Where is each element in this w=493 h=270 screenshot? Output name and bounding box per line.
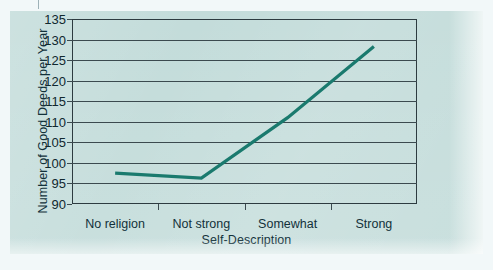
x-category-label: Somewhat [258, 217, 317, 231]
x-category-label: Not strong [173, 217, 231, 231]
figure-page: Number of Good Deeds per Year Self-Descr… [0, 0, 493, 270]
data-line-series [72, 19, 417, 204]
x-category-label: Strong [355, 217, 392, 231]
series-polyline [115, 47, 374, 179]
y-tick-label: 115 [45, 94, 66, 109]
x-tick-mark [331, 204, 332, 210]
y-tick-label: 105 [44, 135, 66, 150]
x-category-label: No religion [85, 217, 145, 231]
y-tick-label: 125 [44, 53, 66, 68]
y-tick-label: 100 [44, 155, 66, 170]
plot-area: 9095100105110115120125130135 No religion… [72, 19, 417, 204]
y-tick-label: 90 [52, 197, 66, 212]
y-tick-label: 120 [44, 73, 66, 88]
scan-artifact-tick [38, 0, 39, 9]
x-axis-title: Self-Description [10, 233, 483, 247]
y-tick-mark [67, 204, 72, 205]
y-tick-label: 135 [44, 12, 66, 27]
x-tick-mark [158, 204, 159, 210]
y-tick-label: 130 [44, 32, 66, 47]
y-tick-label: 95 [52, 176, 66, 191]
chart-figure: Number of Good Deeds per Year Self-Descr… [10, 11, 483, 254]
x-tick-mark [245, 204, 246, 210]
y-tick-label: 110 [45, 114, 66, 129]
